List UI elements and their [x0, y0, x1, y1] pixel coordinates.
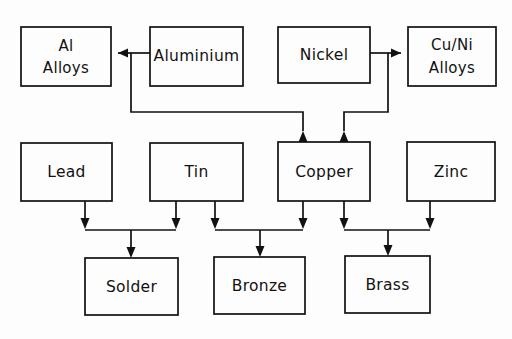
node-cu-ni-alloys[interactable]: Cu/Ni Alloys — [408, 27, 496, 86]
edge-aluminium-to-al-alloys — [118, 49, 150, 58]
node-label-tin: Tin — [183, 163, 208, 181]
arrow-head-down-icon — [426, 218, 435, 229]
diagram-svg: Al Alloys Aluminium Nickel Cu/Ni Alloys … — [0, 0, 512, 339]
node-label-copper: Copper — [295, 163, 353, 181]
edge-zinc-to-brass — [388, 201, 435, 230]
node-label-aluminium: Aluminium — [154, 47, 240, 65]
edge-copper-to-bronze — [260, 201, 308, 230]
node-label-brass: Brass — [365, 276, 409, 294]
node-al-alloys[interactable]: Al Alloys — [21, 27, 111, 86]
node-label-al-alloys-line2: Alloys — [43, 59, 89, 77]
node-label-cu-ni-alloys-line1: Cu/Ni — [431, 36, 473, 54]
edge-tin-to-bronze — [211, 201, 261, 230]
edge-copper-to-brass — [340, 201, 389, 230]
node-brass[interactable]: Brass — [345, 256, 430, 313]
node-aluminium[interactable]: Aluminium — [150, 27, 243, 86]
edge-junction-to-solder — [127, 230, 136, 258]
arrow-head-down-icon — [340, 218, 349, 229]
arrow-head-down-icon — [384, 245, 393, 256]
edge-junction-to-brass — [384, 230, 393, 256]
diagram-canvas: Al Alloys Aluminium Nickel Cu/Ni Alloys … — [0, 0, 512, 339]
node-zinc[interactable]: Zinc — [407, 142, 495, 201]
arrow-head-left-icon — [118, 49, 128, 58]
node-label-cu-ni-alloys-line2: Alloys — [429, 59, 475, 77]
arrow-head-up-icon — [299, 131, 308, 142]
arrow-head-right-icon — [391, 49, 401, 58]
arrow-head-down-icon — [211, 218, 220, 229]
edge-nickel-to-cu-ni-alloys — [370, 49, 401, 58]
arrow-head-down-icon — [81, 218, 90, 229]
edge-lead-to-solder — [81, 201, 132, 230]
node-solder[interactable]: Solder — [85, 258, 178, 315]
arrow-head-down-icon — [256, 246, 265, 257]
node-tin[interactable]: Tin — [150, 143, 243, 201]
node-bronze[interactable]: Bronze — [214, 257, 305, 314]
node-label-zinc: Zinc — [434, 163, 468, 181]
node-label-solder: Solder — [106, 278, 158, 296]
node-label-al-alloys-line1: Al — [58, 37, 73, 55]
arrow-head-up-icon — [340, 131, 349, 142]
node-nickel[interactable]: Nickel — [278, 27, 370, 83]
node-lead[interactable]: Lead — [21, 143, 112, 201]
node-copper[interactable]: Copper — [278, 142, 370, 201]
node-label-nickel: Nickel — [300, 46, 349, 64]
node-label-bronze: Bronze — [232, 277, 287, 295]
arrow-head-down-icon — [299, 218, 308, 229]
edge-tin-to-solder — [131, 201, 181, 230]
arrow-head-down-icon — [127, 247, 136, 258]
arrow-head-down-icon — [172, 218, 181, 229]
edge-junction-to-bronze — [256, 230, 265, 257]
node-label-lead: Lead — [47, 163, 85, 181]
